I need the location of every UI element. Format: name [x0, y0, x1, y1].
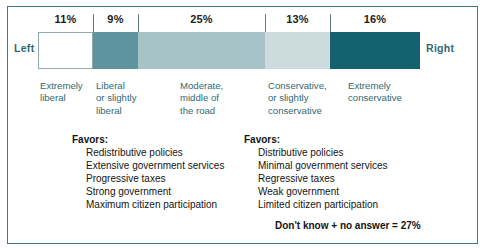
category-label-conservative-or-slightly-conservative: Conservative, or slightly conservative — [268, 80, 340, 117]
favors-item: Limited citizen participation — [258, 198, 388, 211]
favors-items-left: Redistributive policies Extensive govern… — [72, 146, 224, 211]
category-line: Extremely — [40, 80, 92, 92]
category-line: middle of — [180, 92, 250, 104]
category-label-extremely-liberal: Extremely liberal — [40, 80, 92, 105]
footnote-dont-know: Don't know + no answer = 27% — [275, 220, 421, 231]
favors-item: Minimal government services — [258, 159, 388, 172]
favors-heading-left: Favors: — [72, 133, 224, 146]
axis-tick-3 — [330, 14, 331, 32]
category-line: conservative — [348, 92, 428, 104]
favors-item: Distributive policies — [258, 146, 388, 159]
favors-item: Extensive government services — [86, 159, 224, 172]
axis-label-right: Right — [426, 42, 454, 54]
bar-segment-conservative-or-slightly — [265, 32, 330, 69]
category-label-moderate-middle-of-the-road: Moderate, middle of the road — [180, 80, 250, 117]
segment-percent-label-3: 13% — [265, 13, 330, 25]
segment-percent-label-2: 25% — [138, 13, 265, 25]
favors-item: Maximum citizen participation — [86, 198, 224, 211]
category-line: conservative — [268, 105, 340, 117]
category-line: Extremely — [348, 80, 428, 92]
spectrum-bar — [38, 32, 420, 69]
segment-percent-label-1: 9% — [93, 13, 138, 25]
category-line: liberal — [96, 105, 158, 117]
axis-tick-2 — [265, 14, 266, 32]
bar-segment-extremely-conservative — [330, 32, 420, 69]
category-line: Liberal — [96, 80, 158, 92]
category-line: or slightly — [96, 92, 158, 104]
favors-items-right: Distributive policies Minimal government… — [244, 146, 388, 211]
category-line: liberal — [40, 92, 92, 104]
favors-list-left: Favors: Redistributive policies Extensiv… — [72, 133, 224, 212]
category-line: the road — [180, 105, 250, 117]
favors-item: Strong government — [86, 185, 224, 198]
bar-segment-extremely-liberal — [38, 32, 93, 69]
favors-item: Regressive taxes — [258, 172, 388, 185]
category-line: Moderate, — [180, 80, 250, 92]
category-line: or slightly — [268, 92, 340, 104]
favors-list-right: Favors: Distributive policies Minimal go… — [244, 133, 388, 212]
bar-segment-liberal-or-slightly-liberal — [93, 32, 138, 69]
bar-segment-moderate-middle-of-the-road — [138, 32, 265, 69]
ideology-spectrum-figure: 11% 9% 25% 13% 16% Left Right Extremely … — [0, 0, 486, 252]
axis-label-left: Left — [14, 42, 34, 54]
favors-item: Redistributive policies — [86, 146, 224, 159]
category-label-extremely-conservative: Extremely conservative — [348, 80, 428, 105]
favors-item: Weak government — [258, 185, 388, 198]
segment-percent-label-0: 11% — [38, 13, 93, 25]
segment-percent-label-4: 16% — [330, 13, 420, 25]
favors-item: Progressive taxes — [86, 172, 224, 185]
axis-tick-1 — [138, 14, 139, 32]
category-label-liberal-or-slightly-liberal: Liberal or slightly liberal — [96, 80, 158, 117]
axis-tick-0 — [93, 14, 94, 32]
category-line: Conservative, — [268, 80, 340, 92]
favors-heading-right: Favors: — [244, 133, 388, 146]
